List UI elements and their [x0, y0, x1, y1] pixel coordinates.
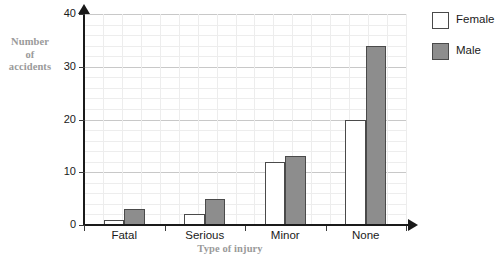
gridline-vertical — [406, 14, 407, 225]
y-tick-label-10: 10 — [50, 165, 76, 177]
bar-none-male — [366, 46, 387, 225]
gridline-minor-horizontal — [84, 35, 406, 36]
gridline-vertical — [387, 14, 388, 225]
gridline-major-horizontal — [84, 14, 406, 15]
bar-minor-male — [285, 156, 306, 225]
y-axis-arrow-icon — [78, 4, 90, 14]
gridline-vertical — [330, 14, 331, 225]
gridline-minor-horizontal — [84, 88, 406, 89]
gridline-vertical — [179, 14, 180, 225]
white-square-icon — [432, 12, 449, 29]
gridline-minor-horizontal — [84, 25, 406, 26]
legend-label-female: Female — [456, 13, 494, 25]
gray-square-icon — [432, 43, 449, 60]
y-axis-title-line-1: Number — [0, 36, 60, 49]
y-tick-mark-10 — [79, 172, 85, 173]
bar-minor-female — [265, 162, 286, 225]
gridline-major-horizontal — [84, 67, 406, 68]
gridline-minor-horizontal — [84, 77, 406, 78]
gridline-minor-horizontal — [84, 98, 406, 99]
bar-none-female — [345, 120, 366, 226]
y-tick-mark-30 — [79, 67, 85, 68]
y-axis-line — [83, 12, 85, 225]
x-tick-label-minor: Minor — [240, 229, 330, 241]
plot-area — [84, 14, 406, 225]
y-tick-label-0: 0 — [50, 218, 76, 230]
y-tick-mark-20 — [79, 120, 85, 121]
x-tick-mark — [326, 226, 327, 231]
gridline-minor-horizontal — [84, 56, 406, 57]
legend-label-male: Male — [456, 44, 481, 56]
gridline-vertical — [254, 14, 255, 225]
bar-chart: Number of accidents 010203040 FatalSerio… — [0, 0, 501, 261]
gridline-vertical — [141, 14, 142, 225]
bar-serious-male — [205, 199, 226, 225]
x-tick-mark — [406, 226, 407, 231]
cropped-header-artifact — [2, 0, 42, 5]
x-axis-title: Type of injury — [150, 243, 310, 254]
gridline-vertical — [103, 14, 104, 225]
y-tick-label-40: 40 — [50, 7, 76, 19]
gridline-minor-horizontal — [84, 109, 406, 110]
x-tick-label-fatal: Fatal — [79, 229, 169, 241]
x-tick-mark — [165, 226, 166, 231]
bar-fatal-male — [124, 209, 145, 225]
x-tick-mark — [245, 226, 246, 231]
y-tick-label-20: 20 — [50, 113, 76, 125]
x-axis-line — [84, 224, 411, 226]
y-tick-mark-40 — [79, 14, 85, 15]
gridline-vertical — [122, 14, 123, 225]
x-tick-label-none: None — [321, 229, 411, 241]
gridline-vertical — [236, 14, 237, 225]
x-tick-label-serious: Serious — [160, 229, 250, 241]
x-tick-mark — [84, 226, 85, 231]
gridline-vertical — [198, 14, 199, 225]
gridline-vertical — [311, 14, 312, 225]
gridline-minor-horizontal — [84, 46, 406, 47]
gridline-vertical — [160, 14, 161, 225]
y-tick-label-30: 30 — [50, 60, 76, 72]
gridline-vertical — [217, 14, 218, 225]
